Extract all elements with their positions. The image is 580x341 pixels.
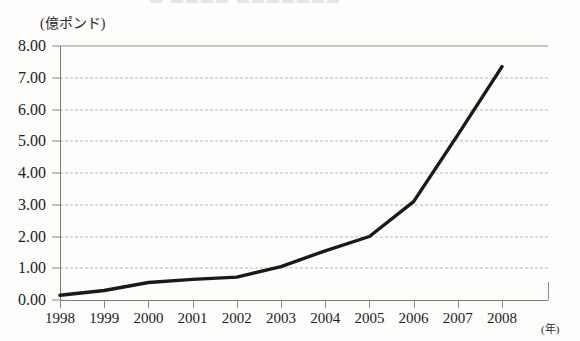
x-tick-label-2004: 2004 [310,310,340,327]
y-tick-5.00 [52,141,60,142]
y-tick-2.00 [52,236,60,237]
x-tick-label-1998: 1998 [45,310,75,327]
x-tick-2007 [458,300,459,308]
x-tick-1999 [104,300,105,308]
y-tick-label-8.00: 8.00 [18,37,46,55]
chart-figure: ▬ ▬▬▬▬ ▬▬▬▬▬▬▬ (億ポンド) 0.001.002.003.004.… [0,0,580,341]
y-tick-label-1.00: 1.00 [18,259,46,277]
x-tick-2001 [193,300,194,308]
x-tick-label-2008: 2008 [487,310,517,327]
x-tick-label-2005: 2005 [354,310,384,327]
y-tick-6.00 [52,109,60,110]
y-axis-unit-label: (億ポンド) [40,12,105,32]
x-tick-label-2002: 2002 [222,310,252,327]
data-line-svg [60,46,548,300]
x-tick-2000 [148,300,149,308]
x-tick-2006 [414,300,415,308]
y-tick-8.00 [52,46,60,47]
y-tick-3.00 [52,204,60,205]
right-axis-stub [548,282,549,300]
x-tick-label-2006: 2006 [399,310,429,327]
plot-area: 0.001.002.003.004.005.006.007.008.00 199… [60,46,548,300]
x-tick-label-2007: 2007 [443,310,473,327]
x-tick-2005 [369,300,370,308]
x-tick-label-2001: 2001 [178,310,208,327]
y-tick-0.00 [52,300,60,301]
y-tick-label-3.00: 3.00 [18,196,46,214]
x-tick-2004 [325,300,326,308]
x-tick-label-1999: 1999 [89,310,119,327]
data-line-series [60,67,502,296]
x-tick-2003 [281,300,282,308]
clipped-title-text: ▬ ▬▬▬▬ ▬▬▬▬▬▬▬ [150,0,470,6]
y-tick-4.00 [52,173,60,174]
y-tick-1.00 [52,268,60,269]
y-tick-label-0.00: 0.00 [18,291,46,309]
y-tick-label-2.00: 2.00 [18,228,46,246]
y-tick-label-7.00: 7.00 [18,69,46,87]
y-tick-label-4.00: 4.00 [18,164,46,182]
x-tick-label-2000: 2000 [133,310,163,327]
y-tick-label-5.00: 5.00 [18,132,46,150]
x-tick-2008 [502,300,503,308]
x-tick-label-2003: 2003 [266,310,296,327]
x-tick-2002 [237,300,238,308]
x-tick-1998 [60,300,61,308]
x-axis-line [60,300,548,301]
x-axis-unit-label: (年) [541,320,559,336]
y-tick-label-6.00: 6.00 [18,101,46,119]
y-tick-7.00 [52,77,60,78]
